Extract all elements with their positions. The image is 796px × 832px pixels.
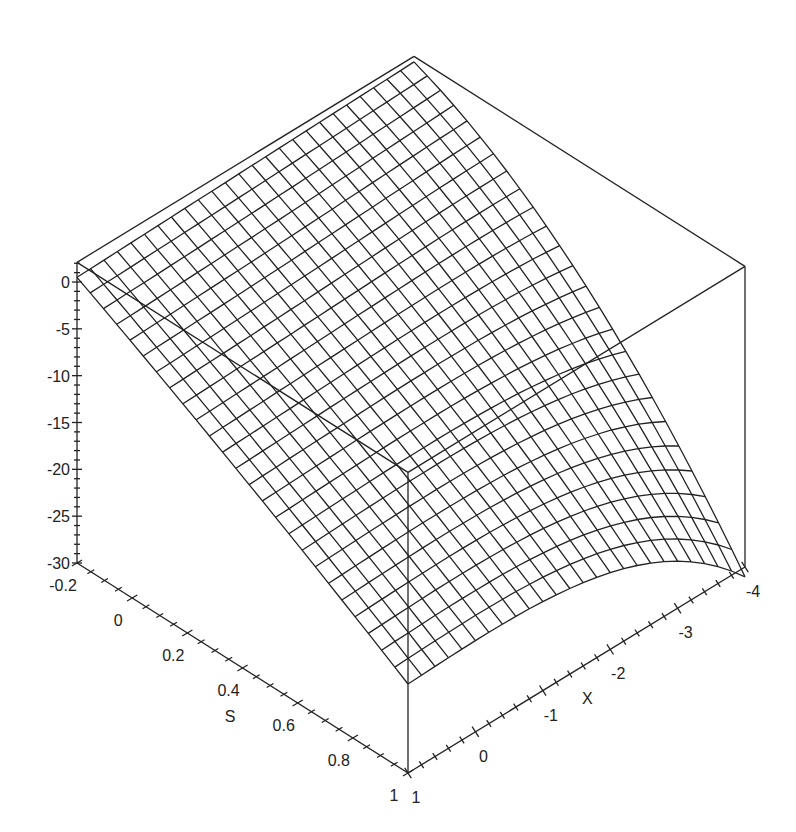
s-tick-label: -0.2 <box>49 577 77 594</box>
x-tick-label: -3 <box>678 624 692 641</box>
x-tick-label: -1 <box>544 707 558 724</box>
x-tick-label: -4 <box>746 583 760 600</box>
z-tick-label: -25 <box>47 508 70 525</box>
x-axis <box>405 562 749 778</box>
s-axis <box>72 560 413 776</box>
s-axis-label: S <box>225 708 236 725</box>
z-axis <box>72 262 82 563</box>
s-tick-label: 0.4 <box>217 682 239 699</box>
s-tick-label: 0.2 <box>162 647 184 664</box>
s-tick-label: 0 <box>114 612 123 629</box>
z-tick-label: 0 <box>61 274 70 291</box>
z-tick-label: -15 <box>47 415 70 432</box>
x-tick-label: -2 <box>611 665 625 682</box>
s-tick-label: 0.6 <box>273 717 295 734</box>
x-tick-label: 0 <box>479 748 488 765</box>
s-tick-label: 1 <box>390 787 399 804</box>
z-tick-label: -30 <box>47 555 70 572</box>
z-tick-label: -20 <box>47 461 70 478</box>
x-tick-label: 1 <box>412 789 421 806</box>
s-tick-label: 0.8 <box>328 752 350 769</box>
x-axis-label: X <box>582 690 593 707</box>
z-tick-label: -5 <box>56 321 70 338</box>
z-tick-label: -10 <box>47 368 70 385</box>
surface-plot: 0-5-10-15-20-25-30-0.200.20.40.60.81S10-… <box>0 0 796 832</box>
surface-mesh <box>77 62 745 684</box>
